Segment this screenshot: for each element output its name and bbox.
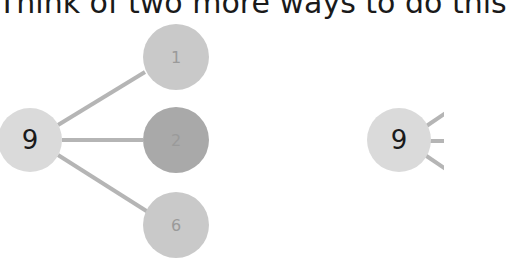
connector-line [425, 155, 444, 172]
connector-line [58, 155, 148, 212]
whole-value: 9 [391, 125, 408, 155]
part-value: 6 [171, 216, 181, 235]
connector-line [58, 72, 145, 125]
whole-value: 9 [22, 125, 39, 155]
part-value: 1 [171, 48, 181, 67]
part-whole-diagram-2: 9 [367, 108, 444, 172]
connector-line [425, 110, 444, 127]
part-whole-diagram-1: 9 1 2 6 [0, 24, 209, 258]
part-value: 2 [171, 131, 181, 150]
